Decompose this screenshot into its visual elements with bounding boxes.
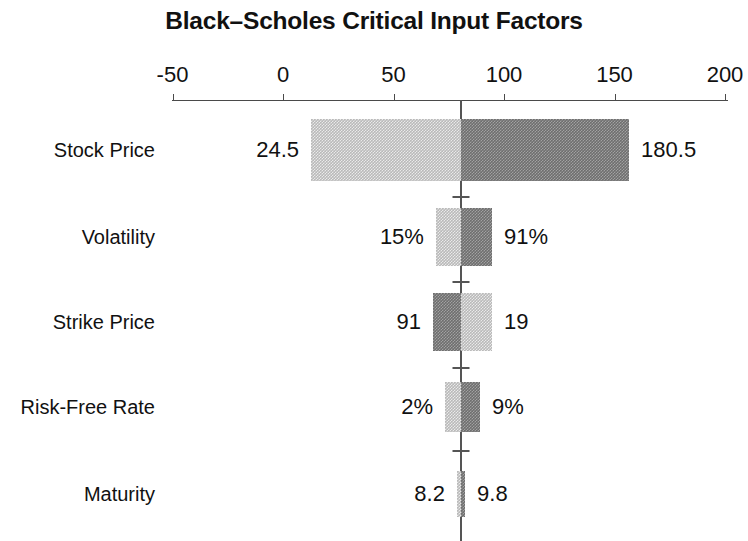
- x-axis-tick-mark: [394, 94, 395, 101]
- x-axis-tick-label: 50: [381, 62, 405, 88]
- x-axis-tick-mark: [504, 94, 505, 101]
- category-label-stock-price: Stock Price: [54, 139, 155, 162]
- plot-area: -50050100150200 Stock PriceVolatilityStr…: [0, 0, 748, 541]
- tornado-bar: [433, 293, 492, 351]
- category-label-volatility: Volatility: [82, 226, 155, 249]
- bar-segment-low: [445, 382, 461, 432]
- bar-segment-high: [461, 382, 480, 432]
- value-label-low: 8.2: [414, 481, 445, 507]
- bar-segment-low: [433, 293, 461, 351]
- value-label-low: 24.5: [256, 137, 299, 163]
- x-axis-tick-mark: [615, 94, 616, 101]
- category-label-risk-free-rate: Risk-Free Rate: [21, 396, 155, 419]
- category-label-strike-price: Strike Price: [53, 311, 155, 334]
- x-axis-tick-mark: [725, 94, 726, 101]
- x-axis-tick-mark: [173, 94, 174, 101]
- row-separator-tick: [452, 367, 469, 369]
- tornado-chart: Black–Scholes Critical Input Factors -50…: [0, 0, 748, 541]
- x-axis-tick-label: 150: [596, 62, 633, 88]
- category-label-maturity: Maturity: [84, 483, 155, 506]
- bar-segment-high: [461, 293, 492, 351]
- row-separator-tick: [452, 450, 469, 452]
- tornado-bar: [436, 208, 492, 266]
- x-axis-tick-label: 100: [486, 62, 523, 88]
- x-axis-tick-label: -50: [157, 62, 189, 88]
- value-label-high: 9.8: [477, 481, 508, 507]
- row-separator-tick: [452, 281, 469, 283]
- value-label-low: 15%: [380, 224, 424, 250]
- x-axis-tick-mark: [283, 94, 284, 101]
- value-label-low: 2%: [401, 394, 433, 420]
- row-separator-tick: [452, 196, 469, 198]
- value-label-high: 180.5: [641, 137, 696, 163]
- bar-segment-high: [461, 119, 629, 181]
- x-axis-line: [172, 100, 728, 101]
- bar-segment-high: [461, 471, 465, 517]
- bar-segment-low: [311, 119, 461, 181]
- value-label-low: 91: [397, 309, 421, 335]
- value-label-high: 91%: [504, 224, 548, 250]
- value-label-high: 19: [504, 309, 528, 335]
- tornado-bar: [445, 382, 480, 432]
- x-axis-tick-label: 200: [707, 62, 744, 88]
- tornado-bar: [457, 471, 465, 517]
- tornado-bar: [311, 119, 629, 181]
- value-label-high: 9%: [492, 394, 524, 420]
- x-axis-tick-label: 0: [277, 62, 289, 88]
- bar-segment-low: [436, 208, 461, 266]
- bar-segment-high: [461, 208, 492, 266]
